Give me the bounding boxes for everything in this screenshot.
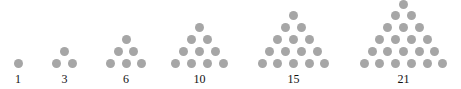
triangular-numbers-diagram: 136101521	[0, 0, 461, 89]
dot	[360, 59, 369, 68]
dot	[203, 59, 212, 68]
figure-label: 10	[185, 72, 215, 87]
dot	[52, 59, 61, 68]
dot	[375, 35, 384, 44]
dot	[273, 59, 282, 68]
dot	[60, 47, 69, 56]
dot	[375, 59, 384, 68]
dot	[407, 35, 416, 44]
dot	[114, 47, 123, 56]
dot	[187, 59, 196, 68]
dot	[122, 35, 131, 44]
dot	[391, 35, 400, 44]
dot	[289, 35, 298, 44]
dot	[195, 23, 204, 32]
dot	[368, 47, 377, 56]
figure-label: 1	[3, 72, 33, 87]
figure-label: 21	[389, 72, 419, 87]
dot	[265, 47, 274, 56]
dot	[423, 35, 432, 44]
dot	[305, 35, 314, 44]
figure-label: 15	[279, 72, 309, 87]
dot	[391, 59, 400, 68]
dot	[399, 23, 408, 32]
dot	[391, 11, 400, 20]
dot	[383, 23, 392, 32]
dot	[399, 0, 408, 9]
dot	[297, 47, 306, 56]
dot	[195, 47, 204, 56]
dot	[211, 47, 220, 56]
dot	[122, 59, 131, 68]
dot	[305, 59, 314, 68]
dot	[219, 59, 228, 68]
dot	[14, 59, 23, 68]
dot	[273, 35, 282, 44]
dot	[415, 23, 424, 32]
figure-label: 3	[50, 72, 80, 87]
dot	[281, 23, 290, 32]
dot	[129, 47, 138, 56]
dot	[438, 59, 447, 68]
dot	[313, 47, 322, 56]
dot	[320, 59, 329, 68]
dot	[203, 35, 212, 44]
dot	[281, 47, 290, 56]
dot	[430, 47, 439, 56]
dot	[289, 11, 298, 20]
dot	[137, 59, 146, 68]
dot	[179, 47, 188, 56]
dot	[407, 59, 416, 68]
dot	[399, 47, 408, 56]
dot	[68, 59, 77, 68]
figure-label: 6	[111, 72, 141, 87]
dot	[415, 47, 424, 56]
dot	[289, 59, 298, 68]
dot	[383, 47, 392, 56]
dot	[423, 59, 432, 68]
dot	[187, 35, 196, 44]
dot	[297, 23, 306, 32]
dot	[407, 11, 416, 20]
dot	[258, 59, 267, 68]
dot	[106, 59, 115, 68]
dot	[171, 59, 180, 68]
